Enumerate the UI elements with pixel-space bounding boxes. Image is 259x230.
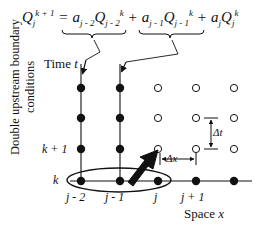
brace-1-leader (86, 40, 100, 60)
underbrace-group (62, 30, 204, 38)
underbrace-term-2 (139, 30, 204, 38)
node-filled (230, 177, 238, 185)
brace-2-pointer-arrow (122, 62, 127, 72)
node-filled (116, 84, 124, 92)
callout-leader-group (86, 40, 178, 62)
boundary-column-lines (81, 64, 120, 181)
node-open (192, 114, 199, 121)
grid-node-group (77, 84, 238, 185)
node-filled (77, 177, 85, 185)
brace-1-pointer-arrow (83, 60, 87, 74)
node-open (230, 84, 237, 91)
node-filled (77, 145, 85, 153)
node-filled (192, 177, 200, 185)
stencil-figure-canvas (0, 0, 259, 230)
node-open (154, 114, 161, 121)
node-filled (116, 177, 124, 185)
delta-x-measure (160, 153, 196, 165)
node-open (230, 114, 237, 121)
node-filled (77, 114, 85, 122)
node-open (192, 84, 199, 91)
delta-t-measure (204, 118, 218, 149)
node-open (192, 145, 199, 152)
node-filled (116, 145, 124, 153)
node-open (230, 145, 237, 152)
brace-2-leader (126, 40, 178, 62)
underbrace-term-1 (62, 30, 126, 38)
node-filled (77, 84, 85, 92)
node-filled (116, 114, 124, 122)
node-open (154, 84, 161, 91)
node-filled (154, 177, 162, 185)
